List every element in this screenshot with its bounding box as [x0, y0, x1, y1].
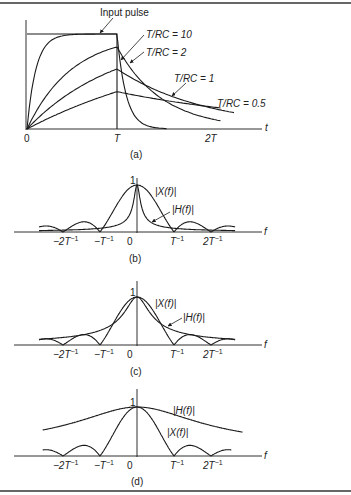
tick-0: 0	[24, 133, 30, 144]
rc05-label: T/RC = 0.5	[217, 98, 266, 109]
input-pulse-pointer-icon	[100, 18, 113, 33]
b-x-label: |X(f)|	[155, 186, 176, 197]
response-curve-rc05	[27, 92, 221, 129]
b-tick-1-over-T: T−1	[170, 235, 184, 247]
d-tick-minus-2-over-T: −2T−1	[53, 459, 79, 471]
caption-c: (c)	[130, 366, 142, 377]
b-h-pointer-icon	[152, 212, 170, 222]
rc1-label: T/RC = 1	[174, 73, 214, 84]
b-tick-minus-2-over-T: −2T−1	[53, 235, 79, 247]
d-x-label: |X(f)|	[167, 427, 188, 438]
rc2-label: T/RC = 2	[146, 47, 187, 58]
caption-b: (b)	[129, 253, 141, 264]
t-axis-label: t	[265, 122, 269, 133]
d-h-label: |H(f)|	[173, 405, 195, 416]
b-tick-minus-1-over-T: −T−1	[94, 235, 114, 247]
c-x-label: |X(f)|	[155, 298, 176, 309]
b-tick-zero: 0	[127, 236, 133, 247]
caption-d: (d)	[131, 476, 143, 487]
tick-2T: 2T	[204, 133, 218, 144]
rc1-pointer-icon	[172, 83, 186, 96]
c-tick-minus-2-over-T: −2T−1	[53, 348, 79, 360]
d-y-tick-1: 1	[130, 397, 136, 408]
panel-a-time-response: Input pulse T/RC = 10 T/RC = 2 T/RC = 1 …	[24, 7, 269, 160]
b-h-label: |H(f)|	[172, 204, 194, 215]
panel-b-spectrum: 1 |X(f)| |H(f)| −2T−1−T−10T−12T−1f (b)	[14, 175, 268, 264]
input-pulse-curve	[27, 34, 117, 129]
d-tick-2-over-T: 2T−1	[202, 459, 223, 471]
d-f-axis-label: f	[264, 450, 268, 461]
c-tick-1-over-T: T−1	[170, 348, 184, 360]
response-curve-rc2	[27, 47, 221, 129]
d-f-ticks: −2T−1−T−10T−12T−1f	[53, 450, 268, 471]
rc2-pointer-icon	[130, 52, 144, 63]
c-f-ticks: −2T−1−T−10T−12T−1f	[53, 339, 268, 360]
b-f-axis-label: f	[264, 226, 268, 237]
c-y-tick-1: 1	[130, 287, 136, 298]
d-h-response-curve	[43, 407, 243, 432]
c-h-label: |H(f)|	[183, 312, 205, 323]
panel-c-spectrum: 1 |X(f)| |H(f)| −2T−1−T−10T−12T−1f (c)	[14, 281, 268, 377]
d-tick-zero: 0	[127, 460, 133, 471]
c-tick-zero: 0	[127, 349, 133, 360]
rc10-pointer-icon	[121, 35, 144, 60]
c-h-pointer-icon	[168, 318, 182, 326]
panel-d-spectrum: 1 |H(f)| |X(f)| −2T−1−T−10T−12T−1f (d)	[14, 389, 268, 487]
b-y-tick-1: 1	[130, 175, 136, 186]
figure-canvas: Input pulse T/RC = 10 T/RC = 2 T/RC = 1 …	[0, 0, 351, 495]
c-f-axis-label: f	[264, 339, 268, 350]
d-tick-1-over-T: T−1	[170, 459, 184, 471]
c-tick-2-over-T: 2T−1	[202, 348, 223, 360]
caption-a: (a)	[130, 149, 142, 160]
tick-T: T	[114, 133, 121, 144]
c-tick-minus-1-over-T: −T−1	[94, 348, 114, 360]
d-tick-minus-1-over-T: −T−1	[94, 459, 114, 471]
rc10-label: T/RC = 10	[146, 29, 192, 40]
input-pulse-label: Input pulse	[100, 7, 149, 18]
b-tick-2-over-T: 2T−1	[202, 235, 223, 247]
